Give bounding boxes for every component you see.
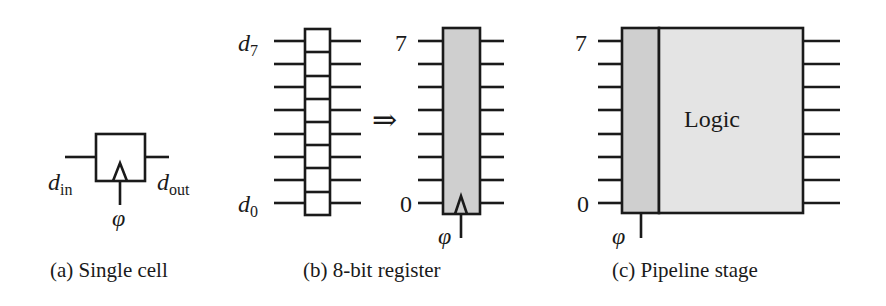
stage-bit0-label: 0: [577, 191, 589, 217]
caption-pipeline-stage: (c) Pipeline stage: [612, 258, 758, 283]
single-cell-diagram: [65, 134, 169, 205]
pipeline-stage: [598, 28, 840, 238]
dout-label: dout: [157, 169, 190, 198]
clock-phi-label-b: φ: [438, 223, 451, 249]
logic-label: Logic: [684, 106, 740, 132]
implies-arrow: ⇒: [372, 103, 397, 136]
cell-stack: [305, 29, 330, 215]
register-bit0-label: 0: [400, 191, 412, 217]
clock-phi-label-a: φ: [112, 205, 125, 231]
caption-single-cell: (a) Single cell: [50, 258, 168, 283]
register-block: [418, 28, 504, 238]
d0-label: d0: [238, 191, 258, 220]
din-label: din: [48, 169, 72, 198]
register-bit7-label: 7: [395, 30, 407, 56]
stage-bit7-label: 7: [575, 30, 587, 56]
d7-label: d7: [238, 30, 258, 59]
clock-phi-label-c: φ: [612, 223, 625, 249]
caption-8bit-register: (b) 8-bit register: [303, 258, 441, 283]
